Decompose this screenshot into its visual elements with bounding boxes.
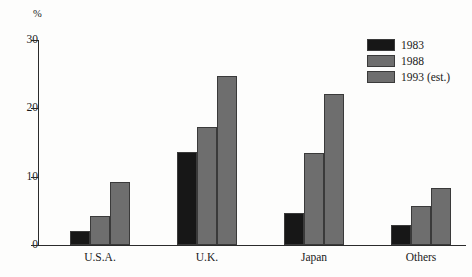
legend-swatch: [367, 55, 395, 67]
bar: [431, 188, 451, 245]
y-axis-tick: 30: [0, 40, 38, 41]
x-axis-category-label: Others: [381, 251, 461, 264]
legend-item: 1993 (est.): [367, 70, 450, 84]
y-axis-tick-mark: [31, 108, 38, 109]
legend-label: 1988: [401, 55, 424, 67]
bar: [304, 153, 324, 245]
x-axis-category-label: U.S.A.: [60, 251, 140, 264]
chart-legend: 198319881993 (est.): [367, 38, 450, 86]
y-axis-tick: 10: [0, 177, 38, 178]
bar: [411, 206, 431, 245]
bar: [70, 231, 90, 245]
x-axis-category-label: Japan: [274, 251, 354, 264]
bar-group: [284, 40, 344, 245]
legend-label: 1983: [401, 39, 424, 51]
legend-swatch: [367, 39, 395, 51]
bar: [217, 76, 237, 245]
legend-swatch: [367, 71, 395, 83]
bar: [324, 94, 344, 245]
legend-label: 1993 (est.): [401, 71, 450, 83]
bar: [90, 216, 110, 245]
legend-item: 1983: [367, 38, 450, 52]
bar-group: [177, 40, 237, 245]
y-axis-unit-label: %: [33, 8, 42, 19]
bar: [284, 213, 304, 245]
y-axis-tick-mark: [31, 40, 38, 41]
x-axis-category-label: U.K.: [167, 251, 247, 264]
bar: [177, 152, 197, 245]
x-axis-line: [38, 245, 466, 246]
bar: [197, 127, 217, 245]
bar: [110, 182, 130, 245]
bar-chart: % 0102030 U.S.A.U.K.JapanOthers 19831988…: [0, 0, 472, 277]
y-axis-tick: 0: [0, 245, 38, 246]
y-axis-tick-mark: [31, 177, 38, 178]
y-axis-tick: 20: [0, 108, 38, 109]
bar-group: [70, 40, 130, 245]
legend-item: 1988: [367, 54, 450, 68]
bar: [391, 225, 411, 246]
y-axis-tick-mark: [31, 245, 38, 246]
